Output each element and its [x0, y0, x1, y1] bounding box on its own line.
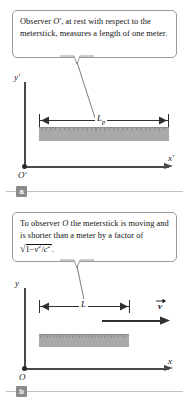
velocity-vector-arrow-glyph	[156, 297, 168, 304]
callout-a: Observer O′, at rest with respect to the…	[12, 10, 177, 58]
leader-line-a	[74, 62, 98, 120]
x-axis-label-b: x	[168, 356, 172, 366]
dimension-label-b: L	[79, 299, 88, 311]
lorentz-factor-formula: √1−v2/c2.	[20, 245, 54, 254]
callout-a-line1-pre: Observer	[20, 17, 53, 26]
formula-period: .	[52, 245, 54, 254]
meterstick-a	[39, 127, 169, 141]
meterstick-b-ticks	[39, 335, 129, 339]
callout-b-text: To observer O the meterstick is moving a…	[20, 218, 170, 256]
y-axis-b	[24, 288, 26, 370]
dimension-label-b-base: L	[81, 299, 86, 309]
callout-a-text: Observer O′, at rest with respect to the…	[20, 16, 170, 39]
callout-b-line3-pre: meter by a factor of	[76, 231, 143, 240]
dimension-label-a: Lp	[95, 113, 107, 125]
x-axis-a	[24, 166, 169, 168]
dimension-arrow-right-a	[158, 116, 168, 125]
leader-line-b	[74, 266, 88, 302]
callout-b: To observer O the meterstick is moving a…	[12, 212, 177, 262]
origin-dot-b	[22, 366, 27, 371]
panel-tag-a: a	[16, 186, 27, 197]
x-axis-b	[24, 368, 169, 370]
tag-rule-right-b	[27, 391, 183, 392]
origin-label-a: O′	[18, 170, 26, 180]
callout-b-line1-post: the meterstick is	[68, 219, 126, 228]
tag-rule-left-a	[6, 191, 16, 192]
callout-b-line1-pre: To observer	[20, 219, 62, 228]
tag-rule-right-a	[27, 191, 183, 192]
dimension-label-a-sub: p	[102, 118, 105, 125]
callout-a-line1-post: , at rest with respect	[61, 17, 129, 26]
panel-b: To observer O the meterstick is moving a…	[0, 200, 189, 401]
y-axis-a	[24, 82, 26, 168]
panel-tag-row-a: a	[0, 186, 189, 198]
y-axis-label-b: y	[15, 278, 19, 288]
dimension-arrow-left-b	[40, 302, 50, 311]
dimension-tick-right-b	[129, 300, 130, 313]
origin-dot-a	[22, 164, 27, 169]
radicand: 1−v2/c2	[26, 244, 52, 254]
length-contraction-figure: Observer O′, at rest with respect to the…	[0, 0, 189, 401]
velocity-arrow-head	[160, 315, 173, 327]
callout-a-line3: length of one meter.	[99, 29, 167, 38]
origin-label-b: O	[19, 372, 26, 382]
panel-tag-b: b	[16, 386, 27, 397]
velocity-arrow-shaft	[102, 320, 164, 322]
dimension-arrow-left-a	[40, 116, 50, 125]
meterstick-b	[39, 334, 129, 347]
x-axis-label-a: x′	[168, 153, 174, 163]
panel-a: Observer O′, at rest with respect to the…	[0, 0, 189, 200]
tag-rule-left-b	[6, 391, 16, 392]
dimension-arrow-right-b	[119, 302, 129, 311]
panel-tag-row-b: b	[0, 386, 189, 398]
dimension-tick-right-a	[168, 114, 169, 127]
formula-c-exponent: 2	[48, 243, 51, 249]
meterstick-a-ticks	[39, 128, 169, 132]
y-axis-label-a: y′	[14, 72, 20, 82]
